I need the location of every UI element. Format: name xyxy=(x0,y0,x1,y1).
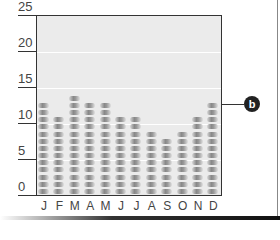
bar-S xyxy=(161,137,173,195)
y-tick-label: 5 xyxy=(18,143,25,158)
pill xyxy=(38,110,49,115)
pill xyxy=(177,139,188,144)
pill xyxy=(192,167,203,172)
y-tick-label: 15 xyxy=(18,71,32,86)
pill xyxy=(69,160,80,165)
bar-D xyxy=(207,101,219,194)
pill xyxy=(53,153,64,158)
pill xyxy=(100,146,111,151)
pill xyxy=(100,103,111,108)
pill xyxy=(161,175,172,180)
pill xyxy=(53,182,64,187)
y-tick xyxy=(18,159,36,160)
pill xyxy=(69,110,80,115)
pill xyxy=(177,146,188,151)
pill xyxy=(53,132,64,137)
x-tick-label: J xyxy=(37,199,51,213)
pill xyxy=(100,182,111,187)
bar-J xyxy=(130,115,142,194)
pill xyxy=(177,160,188,165)
x-tick-label: F xyxy=(52,199,66,213)
pill xyxy=(53,167,64,172)
pill xyxy=(84,124,95,129)
pill xyxy=(207,153,218,158)
pill xyxy=(115,139,126,144)
pill xyxy=(53,189,64,194)
pill xyxy=(130,182,141,187)
pill xyxy=(38,117,49,122)
pill xyxy=(84,146,95,151)
bar-O xyxy=(177,129,189,194)
pill xyxy=(69,175,80,180)
pill xyxy=(207,132,218,137)
y-tick xyxy=(18,123,36,124)
pill xyxy=(207,146,218,151)
pill xyxy=(38,146,49,151)
pill xyxy=(146,153,157,158)
pill xyxy=(84,153,95,158)
pill xyxy=(100,139,111,144)
pill xyxy=(115,124,126,129)
pill xyxy=(146,160,157,165)
pill xyxy=(84,175,95,180)
pill xyxy=(53,117,64,122)
pill xyxy=(38,160,49,165)
pill xyxy=(38,103,49,108)
pill xyxy=(100,167,111,172)
pill xyxy=(177,132,188,137)
pill xyxy=(130,146,141,151)
x-tick-label: O xyxy=(176,199,190,213)
pill xyxy=(84,103,95,108)
bar-M xyxy=(69,93,81,194)
pill xyxy=(69,117,80,122)
pill xyxy=(146,167,157,172)
pill xyxy=(69,96,80,101)
pill xyxy=(100,124,111,129)
pill xyxy=(161,160,172,165)
y-tick-label: 20 xyxy=(18,35,32,50)
x-tick-label: J xyxy=(114,199,128,213)
x-tick-label: S xyxy=(160,199,174,213)
pill xyxy=(146,175,157,180)
pill xyxy=(53,160,64,165)
x-axis-line xyxy=(18,195,222,196)
y-tick xyxy=(18,51,36,52)
gridline-20 xyxy=(37,52,221,53)
pill xyxy=(38,124,49,129)
pill xyxy=(115,132,126,137)
pill xyxy=(207,110,218,115)
pill xyxy=(69,182,80,187)
callout-line xyxy=(222,104,244,105)
y-tick-label: 0 xyxy=(18,179,25,194)
bar-J xyxy=(38,101,50,194)
pill xyxy=(130,160,141,165)
pill xyxy=(207,160,218,165)
pill xyxy=(100,110,111,115)
x-tick-label: A xyxy=(83,199,97,213)
pill xyxy=(192,160,203,165)
pill xyxy=(192,124,203,129)
bar-J xyxy=(115,115,127,194)
pill xyxy=(161,182,172,187)
x-tick-label: M xyxy=(68,199,82,213)
pill xyxy=(192,132,203,137)
pill xyxy=(69,146,80,151)
pill xyxy=(100,189,111,194)
pill xyxy=(192,146,203,151)
pill xyxy=(192,189,203,194)
pill xyxy=(69,153,80,158)
pill xyxy=(146,132,157,137)
pill xyxy=(146,146,157,151)
pill xyxy=(146,182,157,187)
pill xyxy=(69,139,80,144)
pill xyxy=(115,189,126,194)
pill xyxy=(115,153,126,158)
pill xyxy=(192,175,203,180)
pill xyxy=(161,153,172,158)
pill xyxy=(130,117,141,122)
bar-A xyxy=(84,101,96,194)
pill xyxy=(38,167,49,172)
pill xyxy=(100,132,111,137)
pill xyxy=(53,139,64,144)
pill xyxy=(38,182,49,187)
